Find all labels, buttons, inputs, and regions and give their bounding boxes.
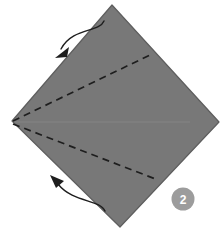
origami-step-figure: 2 (0, 0, 224, 239)
step-badge: 2 (172, 188, 195, 211)
step-badge-label: 2 (180, 193, 187, 207)
origami-diagram-stage: 2 (0, 0, 224, 239)
